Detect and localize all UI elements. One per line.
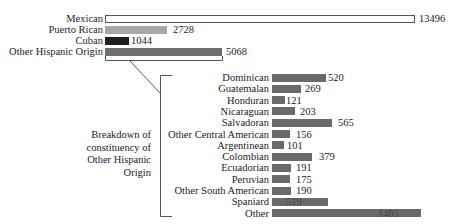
bar-value: 121 (286, 95, 302, 106)
bar-value: 156 (296, 129, 312, 140)
bar-row-dominican: Dominican 520 (0, 72, 449, 83)
bar-value: 175 (296, 174, 312, 185)
bar-row-other: Other 1403 (0, 208, 449, 219)
bar-value: 101 (287, 140, 303, 151)
bar-honduran (272, 96, 285, 104)
bar-value: 519 (286, 196, 302, 207)
bar-value: 203 (300, 106, 316, 117)
bar-value: 190 (296, 185, 312, 196)
bar-dominican (272, 74, 326, 82)
bar-row-other-central-american: Other Central American 156 (0, 129, 449, 140)
bar-other-south-american (272, 187, 291, 195)
bar-value: 191 (296, 162, 312, 173)
bar-value: 269 (305, 83, 321, 94)
bar-label: Nicaraguan (221, 106, 269, 117)
bar-colombian (272, 153, 312, 161)
bar-ecuadorian (272, 164, 291, 172)
bar-nicaraguan (272, 107, 295, 115)
bar-row-other-south-american: Other South American 190 (0, 185, 449, 196)
bar-value: 520 (328, 72, 344, 83)
bar-value: 379 (319, 151, 335, 162)
bar-label: Colombian (222, 151, 269, 162)
bar-salvadoran (272, 119, 332, 127)
bar-row-spaniard: Spaniard 519 (0, 196, 449, 207)
bar-row-ecuadorian: Ecuadorian 191 (0, 162, 449, 173)
bar-row-salvadoran: Salvadoran 565 (0, 117, 449, 128)
bar-label: Guatemalan (218, 83, 269, 94)
bar-argentinean (272, 141, 284, 149)
bar-label: Other Central American (168, 129, 269, 140)
bar-peruvian (272, 175, 290, 183)
bar-label: Other South American (175, 185, 269, 196)
bar-row-colombian: Colombian 379 (0, 151, 449, 162)
bar-label: Other (245, 208, 269, 219)
bar-label: Honduran (227, 95, 269, 106)
bar-label: Ecuadorian (221, 162, 269, 173)
bar-label: Spaniard (232, 196, 269, 207)
bar-row-guatemalan: Guatemalan 269 (0, 83, 449, 94)
bar-label: Salvadoran (222, 117, 269, 128)
bar-value: 565 (338, 117, 354, 128)
bar-row-honduran: Honduran 121 (0, 95, 449, 106)
bar-other-central-american (272, 130, 290, 138)
bar-label: Peruvian (232, 174, 269, 185)
bar-value: 1403 (378, 208, 399, 219)
bar-guatemalan (272, 85, 301, 93)
bar-row-peruvian: Peruvian 175 (0, 174, 449, 185)
bar-label: Argentinean (217, 140, 269, 151)
hispanic-origin-chart: Mexican 13496 Puerto Rican 2728 Cuban 10… (0, 0, 449, 224)
bar-row-argentinean: Argentinean 101 (0, 140, 449, 151)
bar-label: Dominican (222, 72, 269, 83)
bar-row-nicaraguan: Nicaraguan 203 (0, 106, 449, 117)
